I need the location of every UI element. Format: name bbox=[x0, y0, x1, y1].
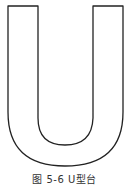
u-shape-outline bbox=[8, 6, 123, 166]
u-shaped-table-diagram bbox=[0, 0, 129, 172]
figure-caption: 图 5-6 U型台 bbox=[0, 174, 129, 186]
